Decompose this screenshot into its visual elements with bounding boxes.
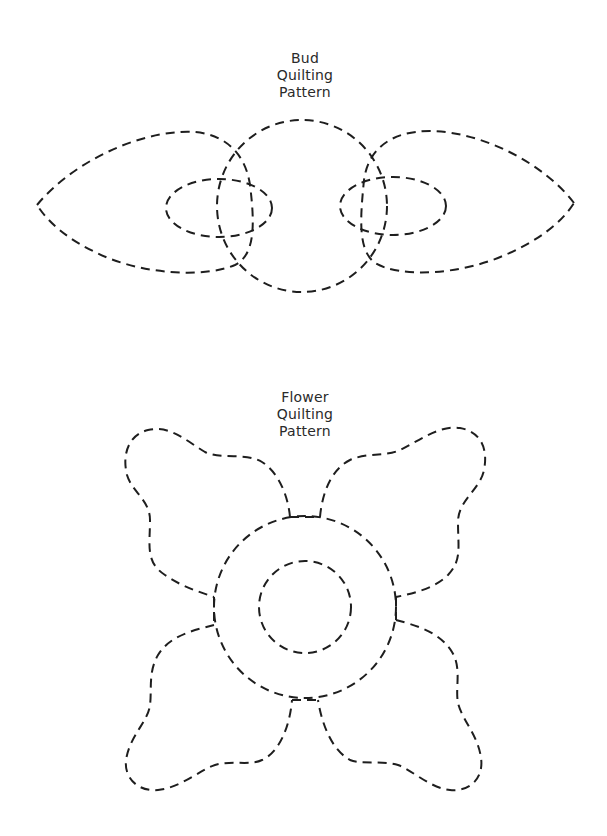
flower-petal-top-left [125,429,290,597]
bud-left-leaf [37,132,253,273]
bud-right-inner-oval [340,177,446,235]
quilting-patterns-drawing [0,0,607,836]
flower-outer-ring [214,516,396,698]
bud-center-circle [217,120,387,292]
bud-pattern [37,120,574,292]
flower-petal-bottom-left [126,625,292,790]
flower-pattern [125,428,485,791]
flower-petal-bottom-right [318,620,481,790]
bud-right-leaf [361,131,574,272]
flower-petal-top-right [320,428,485,597]
flower-center-circle [259,561,351,653]
